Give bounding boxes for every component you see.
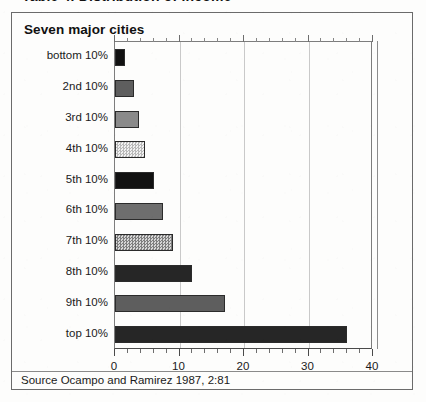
bar	[115, 265, 192, 282]
x-tick-major	[308, 349, 309, 356]
x-tick-major	[243, 349, 244, 356]
x-tick-top-minor	[359, 38, 360, 42]
y-axis-labels: bottom 10%2nd 10%3rd 10%4th 10%5th 10%6t…	[10, 41, 108, 349]
x-tick-minor	[153, 349, 154, 353]
y-axis-label: bottom 10%	[47, 49, 108, 61]
x-tick-minor	[230, 349, 231, 353]
y-axis-label: 9th 10%	[66, 296, 108, 308]
source-citation: Source Ocampo and Ramirez 1987, 2:81	[21, 374, 230, 386]
table-caption-text: Table 4. Distribution of income	[22, 0, 322, 1]
x-tick-top-minor	[295, 38, 296, 42]
x-tick-top-minor	[282, 38, 283, 42]
x-tick-label: 30	[301, 360, 314, 372]
x-tick-top-major	[372, 35, 373, 42]
x-tick-major	[372, 349, 373, 356]
x-tick-top-minor	[140, 38, 141, 42]
bar	[115, 326, 347, 343]
plot-outer-right-rule	[377, 41, 378, 349]
x-tick-top-minor	[333, 38, 334, 42]
x-tick-label: 0	[111, 360, 117, 372]
y-axis-label: 6th 10%	[66, 203, 108, 215]
x-tick-top-major	[308, 35, 309, 42]
source-divider	[12, 371, 412, 372]
x-tick-major	[179, 349, 180, 356]
gridline	[309, 42, 310, 348]
x-tick-major	[114, 349, 115, 356]
gridline	[244, 42, 245, 348]
x-tick-minor	[282, 349, 283, 353]
y-axis-label: 3rd 10%	[65, 111, 108, 123]
x-tick-minor	[320, 349, 321, 353]
bar	[115, 172, 154, 189]
bar	[115, 80, 134, 97]
bar	[115, 111, 139, 128]
x-axis-ticks-top	[114, 34, 373, 42]
y-axis-label: 7th 10%	[66, 234, 108, 246]
x-tick-top-minor	[346, 38, 347, 42]
x-tick-minor	[217, 349, 218, 353]
x-axis-ticks-bottom	[114, 349, 373, 357]
bar	[115, 203, 163, 220]
x-tick-top-minor	[204, 38, 205, 42]
x-tick-minor	[256, 349, 257, 353]
x-tick-minor	[295, 349, 296, 353]
bar	[115, 49, 125, 66]
y-axis-label: 2nd 10%	[63, 80, 108, 92]
x-tick-top-minor	[153, 38, 154, 42]
x-tick-minor	[191, 349, 192, 353]
x-tick-minor	[140, 349, 141, 353]
x-tick-top-minor	[191, 38, 192, 42]
x-tick-top-minor	[127, 38, 128, 42]
table-caption-cutoff: Table 4. Distribution of income	[22, 0, 322, 1]
x-tick-label: 20	[237, 360, 250, 372]
x-tick-minor	[269, 349, 270, 353]
y-axis-label: 8th 10%	[66, 265, 108, 277]
y-axis-label: 5th 10%	[66, 173, 108, 185]
x-tick-minor	[166, 349, 167, 353]
x-tick-minor	[127, 349, 128, 353]
x-tick-top-major	[179, 35, 180, 42]
x-tick-top-major	[114, 35, 115, 42]
x-tick-top-major	[243, 35, 244, 42]
plot-area	[114, 41, 372, 349]
x-tick-minor	[346, 349, 347, 353]
x-tick-label: 10	[172, 360, 185, 372]
x-tick-top-minor	[320, 38, 321, 42]
x-tick-label: 40	[366, 360, 379, 372]
y-axis-label: top 10%	[66, 327, 108, 339]
x-tick-top-minor	[269, 38, 270, 42]
x-tick-top-minor	[166, 38, 167, 42]
x-tick-minor	[359, 349, 360, 353]
x-tick-top-minor	[217, 38, 218, 42]
bar	[115, 141, 145, 158]
x-tick-minor	[204, 349, 205, 353]
x-tick-minor	[333, 349, 334, 353]
y-axis-label: 4th 10%	[66, 142, 108, 154]
bar	[115, 234, 173, 251]
x-tick-top-minor	[256, 38, 257, 42]
x-tick-top-minor	[230, 38, 231, 42]
bar	[115, 295, 225, 312]
